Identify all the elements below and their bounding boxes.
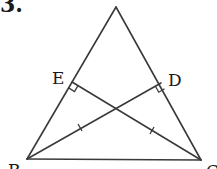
label-c: C bbox=[206, 161, 217, 169]
label-a: A bbox=[108, 0, 122, 2]
label-e: E bbox=[52, 68, 64, 88]
problem-number: 3. bbox=[0, 0, 23, 17]
label-d: D bbox=[168, 70, 182, 90]
triangle-diagram: 3. A B C D E bbox=[0, 0, 217, 169]
side-bc bbox=[27, 159, 201, 160]
label-b: B bbox=[8, 160, 21, 169]
side-ab bbox=[27, 7, 116, 159]
segment-ce bbox=[72, 82, 201, 160]
